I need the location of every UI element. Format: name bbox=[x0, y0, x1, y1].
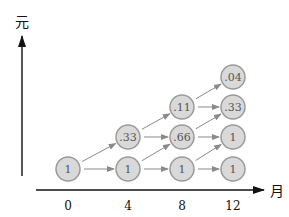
node-value: 1 bbox=[179, 163, 186, 176]
edge-arrow-up bbox=[196, 84, 221, 99]
x-tick-labels: 0 4 8 12 bbox=[64, 199, 240, 213]
node-value: 1 bbox=[230, 163, 237, 176]
edge-arrow-up bbox=[82, 144, 116, 162]
x-tick-0: 0 bbox=[64, 199, 72, 213]
lattice-node: 1 bbox=[116, 157, 140, 181]
lattice-node: 1 bbox=[170, 157, 194, 181]
node-value: 1 bbox=[65, 163, 72, 176]
node-value: 1 bbox=[230, 131, 237, 144]
lattice-node: 1 bbox=[56, 157, 80, 181]
lattice-node: .04 bbox=[221, 65, 245, 89]
edge-arrow-up bbox=[196, 114, 221, 129]
lattice-node: 1 bbox=[221, 157, 245, 181]
edge-arrow-up bbox=[142, 114, 170, 129]
node-value: 1 bbox=[125, 163, 132, 176]
node-value: .33 bbox=[119, 131, 137, 144]
lattice-node: 1 bbox=[221, 125, 245, 149]
edge-arrow-up bbox=[142, 144, 170, 161]
x-axis-label: 月 bbox=[270, 183, 284, 199]
x-tick-8: 8 bbox=[178, 199, 186, 213]
edge-arrow-up bbox=[196, 144, 222, 160]
x-tick-4: 4 bbox=[124, 199, 132, 213]
node-value: .11 bbox=[173, 101, 191, 114]
node-value: .04 bbox=[224, 71, 242, 84]
lattice-node: .33 bbox=[116, 125, 140, 149]
lattice-node: .33 bbox=[221, 95, 245, 119]
nodes: 11.331.66.1111.33.04 bbox=[56, 65, 245, 181]
node-value: .66 bbox=[173, 131, 191, 144]
edges bbox=[82, 84, 221, 169]
lattice-node: .66 bbox=[170, 125, 194, 149]
lattice-node: .11 bbox=[170, 95, 194, 119]
y-axis-label: 元 bbox=[15, 14, 29, 30]
node-value: .33 bbox=[224, 101, 242, 114]
lattice-diagram: 元 月 0 4 8 12 11.331.66.1111.33.04 bbox=[0, 0, 289, 217]
x-tick-12: 12 bbox=[225, 199, 240, 213]
